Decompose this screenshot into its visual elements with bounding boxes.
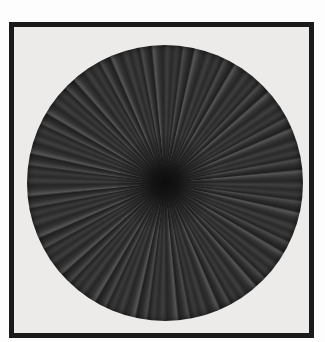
radial-starburst-disc: [27, 45, 303, 321]
picture-frame: [9, 22, 314, 338]
